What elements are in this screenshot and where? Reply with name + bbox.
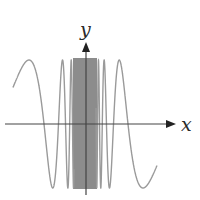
function-graph: x y xyxy=(0,0,200,200)
x-axis-arrow-icon xyxy=(166,120,176,128)
x-axis-label: x xyxy=(181,113,192,135)
y-axis-label: y xyxy=(79,18,91,40)
y-axis-arrow-icon xyxy=(82,42,90,52)
